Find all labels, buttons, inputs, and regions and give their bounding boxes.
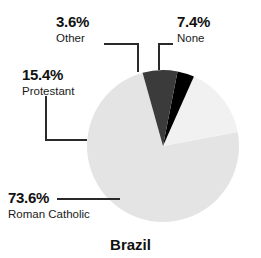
slice-label-roman-catholic: 73.6% Roman Catholic bbox=[8, 190, 90, 221]
slice-label-protestant: 15.4% Protestant bbox=[22, 67, 74, 98]
slice-label-other: 3.6% Other bbox=[56, 14, 89, 45]
slice-name-protestant: Protestant bbox=[22, 84, 74, 98]
slice-name-other: Other bbox=[56, 31, 89, 45]
leader-line-other bbox=[104, 44, 138, 72]
slice-percent-roman-catholic: 73.6% bbox=[8, 190, 90, 206]
slice-name-none: None bbox=[177, 31, 210, 45]
leader-line-protestant bbox=[46, 96, 87, 140]
slice-label-none: 7.4% None bbox=[177, 14, 210, 45]
slice-percent-protestant: 15.4% bbox=[22, 67, 74, 83]
slice-percent-other: 3.6% bbox=[56, 14, 89, 30]
pie-chart-figure: 3.6% Other 7.4% None 15.4% Protestant 73… bbox=[0, 0, 261, 258]
slice-percent-none: 7.4% bbox=[177, 14, 210, 30]
chart-title: Brazil bbox=[0, 236, 261, 253]
leader-line-none bbox=[159, 44, 173, 70]
slice-name-roman-catholic: Roman Catholic bbox=[8, 207, 90, 221]
